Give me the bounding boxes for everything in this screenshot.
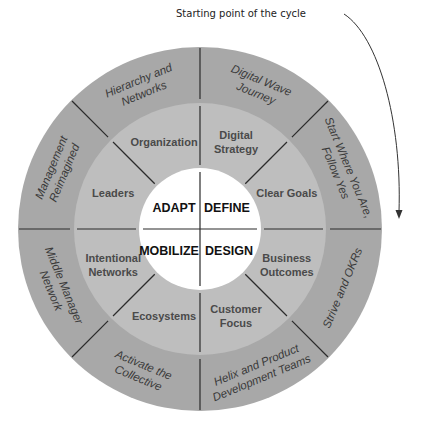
core-label-design: DESIGN	[205, 244, 253, 258]
core-label-adapt: ADAPT	[152, 201, 195, 215]
middle-ring-label-line: Strategy	[214, 143, 259, 155]
middle-ring-label-line: Business	[262, 252, 311, 264]
middle-ring-label-line: Customer	[210, 303, 262, 315]
middle-ring-label-line: Networks	[88, 266, 138, 278]
middle-ring-label-line: Organization	[130, 136, 198, 148]
core-label-define: DEFINE	[204, 201, 250, 215]
middle-ring-label-line: Leaders	[92, 187, 134, 199]
cycle-diagram: Starting point of the cycle Digital Wave…	[0, 0, 424, 431]
middle-ring-label-line: Intentional	[85, 252, 141, 264]
middle-ring-label-line: Digital	[219, 129, 253, 141]
middle-ring-label-line: Clear Goals	[256, 187, 317, 199]
middle-ring-label-line: Outcomes	[260, 266, 314, 278]
core-label-mobilize: MOBILIZE	[139, 244, 199, 258]
arrow-head-icon	[396, 210, 403, 219]
middle-ring-label-line: Ecosystems	[132, 310, 196, 322]
cycle-start-caption: Starting point of the cycle	[176, 8, 306, 19]
middle-ring-label-line: Focus	[220, 317, 252, 329]
